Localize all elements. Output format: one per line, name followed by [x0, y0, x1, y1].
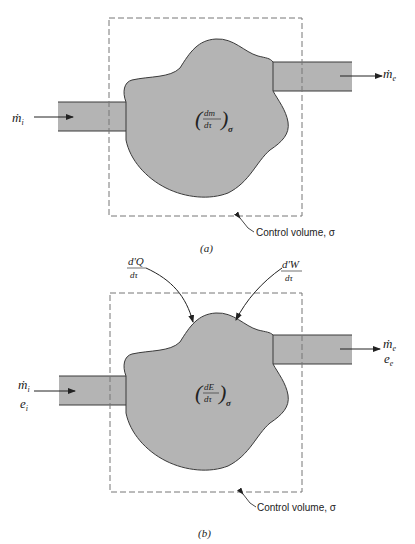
caption-a: (a): [200, 242, 213, 255]
outlet-pipe-a: [270, 62, 352, 91]
control-volume-diagrams: ṁi ṁe ( dm dτ ) σ Control volume, σ (a): [0, 0, 415, 544]
work-rate-label: d'W dτ: [281, 258, 302, 283]
outlet-energy-label-b: ee: [384, 351, 394, 368]
svg-text:dτ: dτ: [285, 273, 294, 283]
cv-label-b: Control volume, σ: [257, 502, 337, 513]
outlet-mass-flow-label-a: ṁe: [383, 66, 396, 83]
svg-text:dE: dE: [204, 382, 215, 392]
svg-text:dm: dm: [204, 108, 216, 118]
svg-text:dτ: dτ: [204, 394, 213, 404]
figure-b: d'Q dτ d'W dτ ṁi ei ṁe ee ( dE dτ ) σ Co…: [18, 255, 396, 540]
svg-text:d'W: d'W: [282, 258, 300, 270]
outlet-pipe-b: [270, 335, 352, 364]
inlet-mass-flow-label-b: ṁi: [18, 377, 30, 394]
work-transfer-arrow: [236, 268, 282, 320]
svg-text:dτ: dτ: [130, 270, 139, 280]
cv-label-a: Control volume, σ: [256, 227, 336, 238]
svg-text:dτ: dτ: [204, 120, 213, 130]
svg-text:d'Q: d'Q: [128, 255, 144, 267]
inlet-mass-flow-label-a: ṁi: [12, 110, 24, 127]
svg-text:): ): [217, 380, 226, 405]
figure-a: ṁi ṁe ( dm dτ ) σ Control volume, σ (a): [12, 18, 396, 255]
caption-b: (b): [198, 527, 211, 540]
cv-leader-b: [243, 494, 256, 507]
system-blob-a: [124, 39, 288, 197]
heat-transfer-arrow: [146, 268, 193, 322]
cv-leader-a: [240, 218, 254, 232]
inlet-energy-label-b: ei: [20, 396, 28, 413]
svg-text:): ): [219, 106, 228, 131]
heat-rate-label: d'Q dτ: [127, 255, 146, 280]
